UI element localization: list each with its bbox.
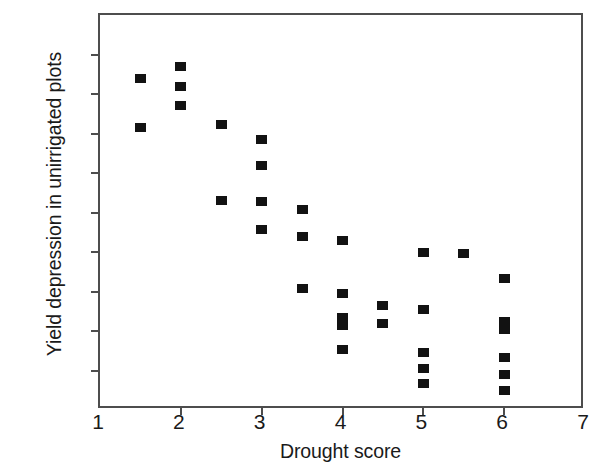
data-point — [256, 161, 267, 170]
data-point — [337, 236, 348, 245]
y-tick-mark — [91, 172, 100, 174]
x-tick-label: 7 — [563, 411, 593, 432]
x-tick-label: 3 — [240, 411, 280, 432]
data-point — [418, 379, 429, 388]
y-tick-mark — [91, 212, 100, 214]
data-point — [135, 74, 146, 83]
data-point — [297, 205, 308, 214]
y-tick-mark — [91, 370, 100, 372]
data-point — [499, 386, 510, 395]
data-point — [458, 249, 469, 258]
y-tick-mark — [91, 133, 100, 135]
data-point — [499, 274, 510, 283]
data-point — [297, 284, 308, 293]
y-tick-mark — [91, 54, 100, 56]
plot-area — [98, 13, 583, 408]
y-tick-mark — [91, 251, 100, 253]
data-point — [337, 289, 348, 298]
data-point — [418, 364, 429, 373]
data-point — [418, 348, 429, 357]
data-point — [175, 62, 186, 71]
data-point — [499, 353, 510, 362]
data-point — [337, 321, 348, 330]
data-point — [175, 82, 186, 91]
y-tick-mark — [91, 291, 100, 293]
data-point — [256, 197, 267, 206]
x-tick-label: 6 — [482, 411, 522, 432]
data-point — [256, 225, 267, 234]
data-point — [135, 123, 146, 132]
data-point — [418, 305, 429, 314]
data-point — [418, 248, 429, 257]
data-point — [337, 345, 348, 354]
x-tick-label: 5 — [401, 411, 441, 432]
data-point — [216, 120, 227, 129]
data-point — [499, 370, 510, 379]
y-tick-mark — [91, 93, 100, 95]
x-tick-label: 4 — [321, 411, 361, 432]
data-point — [256, 135, 267, 144]
x-tick-label: 1 — [78, 411, 118, 432]
y-axis-title: Yield depression in unirrigated plots — [36, 0, 72, 414]
data-point — [297, 232, 308, 241]
data-point — [499, 325, 510, 334]
x-axis-title: Drought score — [98, 440, 583, 463]
data-point — [216, 196, 227, 205]
data-point — [175, 101, 186, 110]
y-tick-mark — [91, 330, 100, 332]
data-point — [377, 301, 388, 310]
x-tick-label: 2 — [159, 411, 199, 432]
data-point — [377, 319, 388, 328]
